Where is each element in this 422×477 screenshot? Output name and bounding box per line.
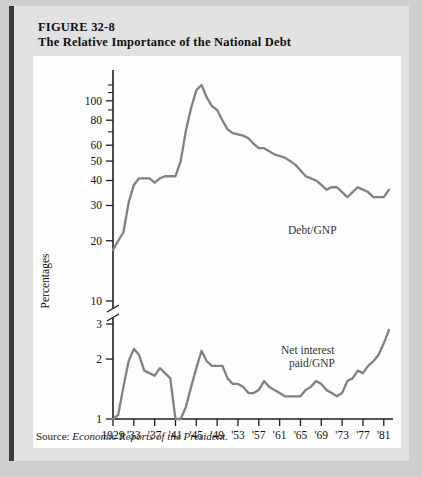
y-axis-title: Percentages (39, 253, 52, 308)
svg-text:10: 10 (91, 295, 103, 307)
svg-text:30: 30 (91, 199, 103, 211)
series-label-net-interest-line2: paid/GNP (289, 357, 335, 370)
svg-text:'77: '77 (356, 429, 370, 441)
source-label: Source: (36, 430, 70, 442)
series-line-net-interest-paid-gnp (113, 330, 389, 419)
series-line-debt-gnp (113, 85, 389, 250)
figure-panel: FIGURE 32-8 The Relative Importance of t… (9, 6, 409, 461)
figure-heading: FIGURE 32-8 The Relative Importance of t… (38, 20, 398, 50)
svg-text:80: 80 (91, 114, 103, 126)
svg-text:'57: '57 (252, 429, 266, 441)
svg-text:20: 20 (91, 235, 103, 247)
figure-number: FIGURE 32-8 (38, 20, 398, 35)
source-note: Source: Economic Reports of the Presiden… (36, 430, 228, 442)
figure-title: The Relative Importance of the National … (38, 35, 398, 50)
svg-text:'81: '81 (377, 429, 391, 441)
source-text: Economic Reports of the President. (72, 430, 228, 442)
svg-text:50: 50 (91, 155, 103, 167)
national-debt-line-chart: 102030405060801001231929'33'37'41'45'49'… (33, 56, 401, 448)
annotation-group: Debt/GNPNet interestpaid/GNP (281, 224, 337, 370)
series-label-debt-gnp: Debt/GNP (288, 224, 337, 236)
series-label-net-interest-line1: Net interest (281, 344, 335, 356)
svg-text:1: 1 (96, 413, 102, 425)
svg-text:'53: '53 (231, 429, 245, 441)
series-group (113, 85, 389, 419)
chart-plot-area: 102030405060801001231929'33'37'41'45'49'… (33, 56, 401, 448)
svg-text:3: 3 (96, 318, 102, 330)
svg-text:'73: '73 (335, 429, 349, 441)
svg-text:60: 60 (91, 139, 103, 151)
svg-text:2: 2 (96, 353, 102, 365)
svg-text:'65: '65 (294, 429, 308, 441)
svg-text:'61: '61 (273, 429, 287, 441)
svg-text:100: 100 (85, 95, 103, 107)
svg-text:'69: '69 (315, 429, 329, 441)
svg-text:40: 40 (91, 174, 103, 186)
